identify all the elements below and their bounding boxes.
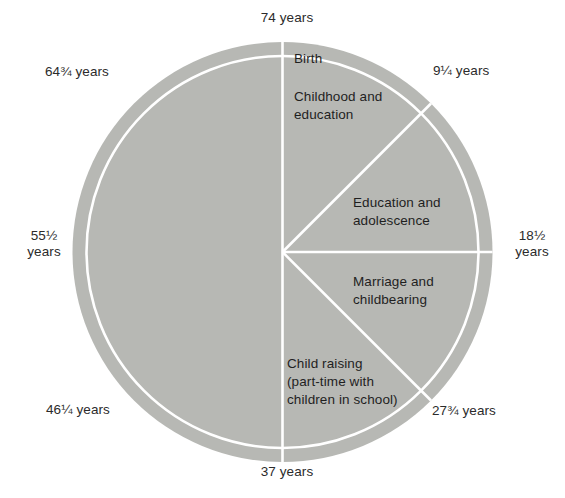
age-label-27-three-quarter-years: 27¾ years bbox=[432, 403, 550, 419]
age-label-18-half-years: 18½ years bbox=[503, 228, 561, 261]
age-label-74-years: 74 years bbox=[239, 10, 335, 26]
age-label-64-three-quarter-years: 64¾ years bbox=[45, 64, 163, 80]
segment-label-childhood-and-education: Childhood and education bbox=[294, 88, 424, 124]
segment-label-marriage-and-childbearing: Marriage and childbearing bbox=[353, 273, 488, 309]
segment-label-education-and-adolescence: Education and adolescence bbox=[353, 194, 488, 230]
age-label-46-quarter-years: 46¼ years bbox=[46, 402, 164, 418]
segment-label-birth: Birth bbox=[294, 50, 414, 68]
age-label-37-years: 37 years bbox=[239, 464, 335, 480]
age-label-55-half-years: 55½ years bbox=[14, 228, 74, 261]
pie-chart-figure: 74 years 64¾ years 9¼ years 55½ years 18… bbox=[0, 0, 565, 498]
age-label-9-quarter-years: 9¼ years bbox=[433, 63, 543, 79]
segment-label-child-raising: Child raising (part-time with children i… bbox=[287, 355, 437, 408]
